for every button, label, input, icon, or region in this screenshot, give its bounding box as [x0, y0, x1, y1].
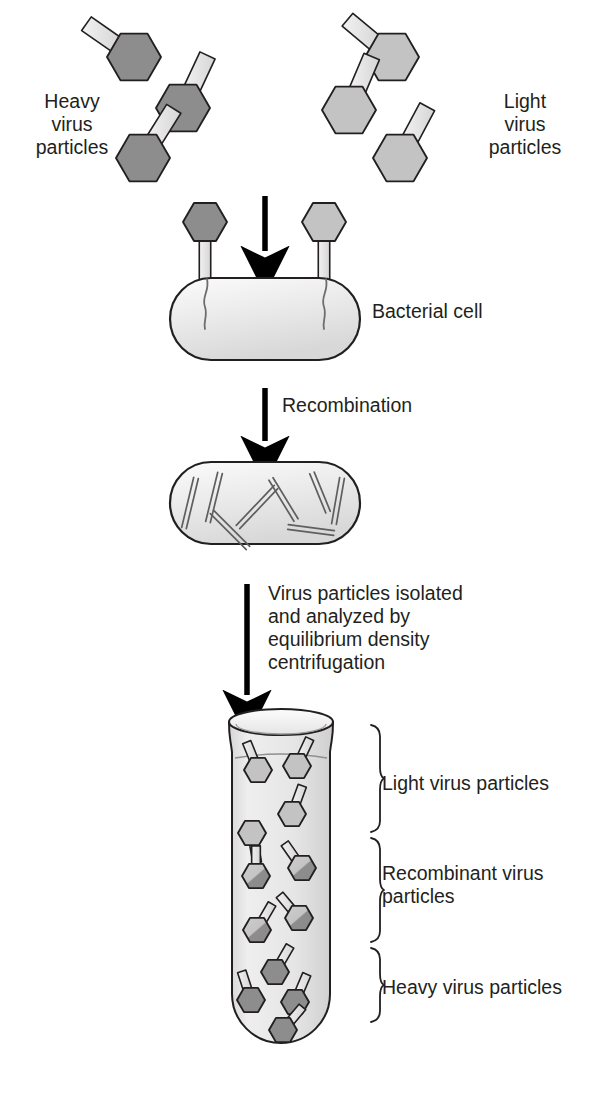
light-virus-particle: [373, 103, 435, 182]
light-virus-particle: [342, 13, 419, 80]
phage-head: [238, 821, 266, 845]
recombination-cell-group: [170, 462, 360, 550]
phage-tail: [318, 240, 329, 280]
band-label-heavy: Heavy virus particles: [382, 976, 562, 998]
phage-tail: [252, 846, 261, 865]
bacterial-cell-body: [170, 278, 360, 360]
heavy-label-line-3: particles: [36, 136, 109, 158]
diagram-canvas: Heavy virus particles Light virus partic…: [0, 0, 600, 1096]
phage-head: [322, 87, 376, 134]
heavy-particles-label: Heavy virus particles: [36, 90, 109, 158]
centrifugation-label: Virus particles isolated and analyzed by…: [268, 582, 463, 673]
light-virus-particle-group: [322, 13, 435, 181]
phage-head: [269, 1018, 297, 1042]
centrifugation-line-3: equilibrium density: [268, 628, 430, 650]
phage-head: [261, 960, 289, 984]
heavy-virus-particle: [82, 17, 161, 81]
phage-head: [242, 864, 270, 888]
phage-tail: [199, 240, 210, 280]
phage-head: [283, 754, 311, 778]
band-label-group: Light virus particles Recombinant virus …: [382, 772, 562, 998]
bacterial-cell-label: Bacterial cell: [372, 300, 483, 322]
tube-rim: [229, 709, 333, 735]
centrifugation-line-4: centrifugation: [268, 651, 385, 673]
phage-head: [285, 906, 313, 930]
light-particles-label: Light virus particles: [489, 90, 562, 158]
band-label-light: Light virus particles: [382, 772, 549, 794]
band-label-recombinant-line-2: particles: [382, 885, 455, 907]
phage-head: [288, 856, 316, 880]
phage-head: [244, 758, 272, 782]
light-virus-particle: [322, 53, 379, 133]
heavy-virus-particle: [116, 104, 181, 181]
phage-head: [278, 802, 306, 826]
light-label-line-1: Light: [504, 90, 547, 112]
recombination-label: Recombination: [282, 394, 412, 416]
centrifugation-line-2: and analyzed by: [268, 605, 410, 627]
phage-head: [243, 918, 271, 942]
phage-recombination-diagram: Heavy virus particles Light virus partic…: [0, 0, 600, 1096]
band-label-recombinant-line-1: Recombinant virus: [382, 862, 544, 884]
light-label-line-3: particles: [489, 136, 562, 158]
light-label-line-2: virus: [504, 113, 545, 135]
heavy-label-line-1: Heavy: [44, 90, 100, 112]
phage-head: [302, 203, 346, 241]
phage-head: [183, 203, 227, 241]
centrifugation-line-1: Virus particles isolated: [268, 582, 463, 604]
heavy-label-line-2: virus: [51, 113, 92, 135]
phage-head: [237, 988, 265, 1012]
